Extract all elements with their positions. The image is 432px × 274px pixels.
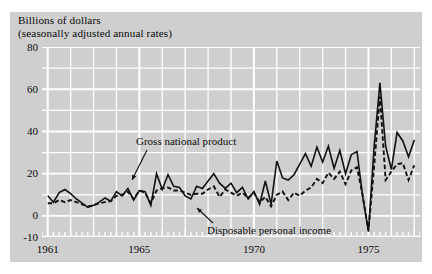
annotation-leader-lines [0,0,432,274]
gnp-leader-arrow [132,150,147,180]
chart-figure: Billions of dollars (seasonally adjusted… [0,0,432,274]
